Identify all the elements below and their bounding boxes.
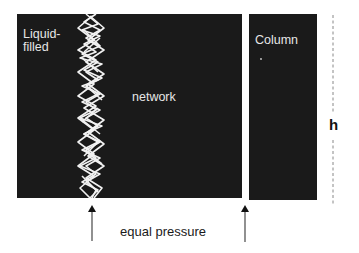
liquid-filled-label-line2: filled — [23, 41, 61, 54]
equal-pressure-label: equal pressure — [120, 225, 206, 238]
column-label: Column — [255, 34, 298, 47]
speck-icon — [260, 58, 262, 60]
arrow-up-icon-left — [88, 205, 96, 241]
figure: Liquid- filled network Column h equal pr… — [0, 0, 359, 253]
network-strand-icon — [78, 14, 104, 198]
height-label: h — [329, 118, 338, 131]
arrow-up-icon-right — [241, 205, 249, 242]
liquid-filled-label: Liquid- filled — [23, 28, 61, 54]
network-label: network — [132, 91, 176, 104]
